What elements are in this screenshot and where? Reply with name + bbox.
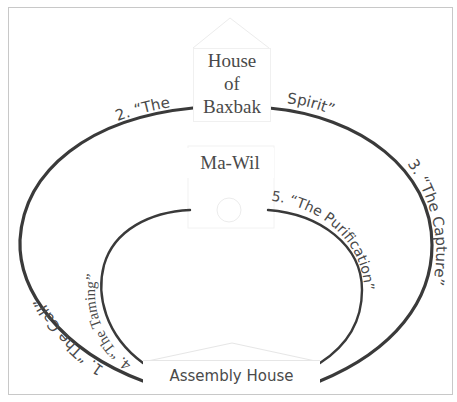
inner-arc [101,210,362,363]
baxbak-line-2: of [194,72,270,95]
mawil-circle [217,198,241,222]
stage-3-label: 3. “The Capture” [404,156,450,287]
baxbak-line-3: Baxbak [194,95,270,118]
stage-5-label: 5. “The Purification” [271,188,378,291]
stage-2-label-start: 2. “The [113,93,171,125]
assembly-house-label: Assembly House [143,360,320,391]
baxbak-line-1: House [194,49,270,72]
house-of-baxbak: House of Baxbak [193,48,271,122]
ceremony-path-diagram: 1. “The Call” 2. “The Spirit” 3. “The Ca… [0,0,457,402]
ma-wil-label: Ma-Wil [186,148,274,178]
baxbak-roof [193,18,269,48]
